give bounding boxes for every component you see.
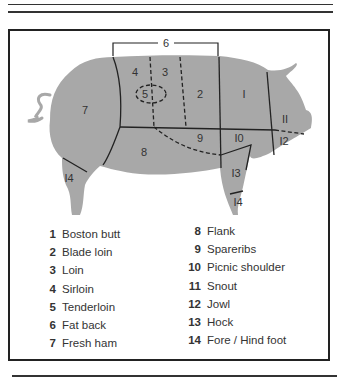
legend-left-column: 1Boston butt 2Blade loin 3Loin 4Sirloin … (44, 225, 120, 352)
legend-label: Snout (207, 277, 237, 295)
label-5: 5 (142, 88, 148, 100)
label-14-fore: I4 (233, 196, 242, 208)
label-14-hind: I4 (64, 172, 73, 184)
label-13: I3 (231, 167, 240, 179)
legend-num: 13 (183, 313, 201, 331)
label-3: 3 (162, 66, 168, 78)
legend-num: 3 (44, 261, 56, 279)
legend-num: 8 (183, 222, 201, 240)
legend-item: 8Flank (183, 222, 286, 240)
legend-item: 7Fresh ham (44, 334, 120, 352)
legend-label: Fat back (62, 316, 106, 334)
legend-item: 11Snout (183, 277, 286, 295)
legend-num: 2 (44, 243, 56, 261)
label-9: 9 (197, 132, 203, 144)
label-4: 4 (132, 66, 138, 78)
legend-num: 1 (44, 225, 56, 243)
legend-num: 7 (44, 334, 56, 352)
label-10: I0 (234, 132, 243, 144)
legend-label: Hock (207, 313, 233, 331)
legend-item: 1Boston butt (44, 225, 120, 243)
label-6: 6 (163, 37, 169, 49)
legend-num: 4 (44, 280, 56, 298)
legend-item: 14Fore / Hind foot (183, 331, 286, 349)
legend-label: Fresh ham (62, 334, 117, 352)
tail (28, 94, 50, 121)
label-1: I (242, 88, 245, 100)
legend-label: Flank (207, 222, 235, 240)
legend-num: 11 (183, 277, 201, 295)
label-8: 8 (141, 146, 147, 158)
label-12: I2 (279, 135, 288, 147)
legend-label: Tenderloin (62, 298, 115, 316)
legend-label: Blade loin (62, 243, 113, 261)
legend-num: 12 (183, 295, 201, 313)
legend-label: Boston butt (62, 225, 120, 243)
legend-item: 2Blade loin (44, 243, 120, 261)
legend-num: 9 (183, 240, 201, 258)
label-11: II (282, 113, 288, 125)
legend-item: 12Jowl (183, 295, 286, 313)
legend-item: 4Sirloin (44, 280, 120, 298)
legend-item: 5Tenderloin (44, 298, 120, 316)
legend-num: 5 (44, 298, 56, 316)
legend-right-column: 8Flank 9Spareribs 10Picnic shoulder 11Sn… (183, 222, 286, 349)
label-2: 2 (197, 88, 203, 100)
legend-label: Spareribs (207, 240, 256, 258)
legend-item: 13Hock (183, 313, 286, 331)
legend-label: Loin (62, 261, 84, 279)
legend-num: 10 (183, 258, 201, 276)
legend-label: Sirloin (62, 280, 94, 298)
legend-num: 14 (183, 331, 201, 349)
legend-label: Fore / Hind foot (207, 331, 286, 349)
legend-item: 6Fat back (44, 316, 120, 334)
legend-label: Jowl (207, 295, 230, 313)
legend-num: 6 (44, 316, 56, 334)
legend-label: Picnic shoulder (207, 258, 285, 276)
legend-item: 9Spareribs (183, 240, 286, 258)
label-7: 7 (82, 104, 88, 116)
legend-item: 10Picnic shoulder (183, 258, 286, 276)
legend-item: 3Loin (44, 261, 120, 279)
